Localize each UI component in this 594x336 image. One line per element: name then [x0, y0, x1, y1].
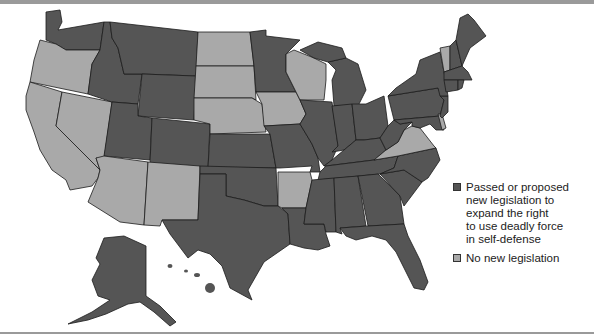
state-ri	[458, 80, 464, 90]
state-nd	[196, 32, 254, 66]
legend-swatch-none	[453, 254, 461, 262]
state-me	[456, 14, 486, 66]
state-wy	[138, 74, 196, 120]
state-sd	[194, 66, 256, 100]
state-ak	[68, 236, 176, 326]
us-map	[0, 0, 594, 336]
bottom-rule	[0, 332, 594, 334]
state-mt	[110, 22, 198, 76]
state-fl	[340, 224, 428, 290]
state-mi	[328, 58, 366, 106]
state-ct	[444, 80, 458, 92]
state-nm	[144, 162, 200, 226]
state-ny	[388, 52, 448, 96]
state-ks	[208, 134, 276, 168]
legend-item-passed: Passed or proposed new legislation to ex…	[453, 181, 593, 246]
state-hi	[168, 264, 216, 293]
legend-swatch-passed	[453, 183, 461, 191]
map-legend: Passed or proposed new legislation to ex…	[453, 181, 593, 271]
state-co	[150, 118, 210, 168]
legend-label-passed: Passed or proposed new legislation to ex…	[466, 181, 569, 246]
legend-item-none: No new legislation	[453, 252, 593, 265]
legend-label-none: No new legislation	[466, 252, 559, 265]
